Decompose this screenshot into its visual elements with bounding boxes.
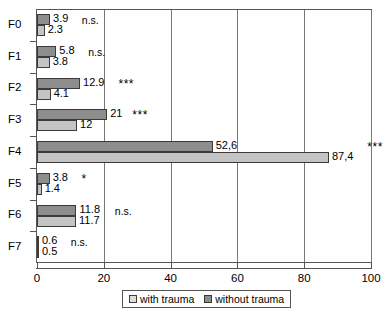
bar-value-label-with-trauma: 3.8 [53,55,68,68]
legend-item-label: without trauma [215,293,284,305]
category-row-f0: 3.92.3n.s. [37,10,371,42]
bar-value-label-with-trauma: 2.3 [48,23,63,36]
category-row-f3: 2112*** [37,105,371,137]
bar-without-trauma [37,236,39,247]
bar-value-label-without-trauma: 12.9 [83,76,104,89]
significance-label-f3: *** [132,109,148,122]
x-tick-mark [237,263,238,269]
x-tick-mark [37,263,38,269]
significance-label-f6: n.s. [115,205,132,218]
significance-label-f7: n.s. [71,236,88,249]
bar-value-label-with-trauma: 11.7 [79,214,100,227]
x-tick-mark [104,263,105,269]
gridline-100 [371,10,372,262]
bar-with-trauma [37,247,39,258]
significance-label-f1: n.s. [88,46,105,59]
significance-label-f5: * [81,173,86,186]
x-tick-label: 0 [34,272,40,284]
bar-value-label-without-trauma: 52,6 [216,139,237,152]
y-tick-label-f1: F1 [8,50,32,62]
y-tick-label-f5: F5 [8,177,32,189]
y-tick-mark [30,136,36,137]
bar-with-trauma [37,184,42,195]
bar-without-trauma [37,141,213,152]
bar-with-trauma [37,57,50,68]
bar-with-trauma [37,152,329,163]
category-row-f5: 3.81.4* [37,169,371,201]
bar-without-trauma [37,205,76,216]
category-row-f4: 52,687,4*** [37,137,371,169]
bar-value-label-without-trauma: 21 [110,107,122,120]
y-tick-mark [30,168,36,169]
y-tick-label-f6: F6 [8,208,32,220]
x-tick-label: 100 [361,272,380,284]
x-tick-label: 20 [97,272,110,284]
bar-with-trauma [37,216,76,227]
legend-item-label: with trauma [140,293,194,305]
y-tick-mark [30,73,36,74]
bar-value-label-with-trauma: 4.1 [54,87,69,100]
x-tick-label: 80 [298,272,311,284]
significance-label-f2: *** [118,78,134,91]
bar-value-label-with-trauma: 0.5 [42,245,57,258]
category-row-f7: 0.60.5n.s. [37,232,371,264]
bar-chart: 3.92.3n.s.5.83.8n.s.12.94.1***2112***52,… [0,0,386,310]
bar-with-trauma [37,89,51,100]
category-row-f2: 12.94.1*** [37,74,371,106]
y-tick-mark [30,231,36,232]
plot-area: 3.92.3n.s.5.83.8n.s.12.94.1***2112***52,… [36,9,372,263]
bar-with-trauma [37,25,45,36]
legend-item-without-trauma: without trauma [204,293,284,305]
bar-value-label-with-trauma: 12 [80,118,92,131]
bar-without-trauma [37,109,107,120]
legend-swatch-icon [129,295,137,303]
significance-label-f0: n.s. [82,14,99,27]
category-row-f6: 11.811.7n.s. [37,201,371,233]
y-tick-mark [30,104,36,105]
bar-value-label-with-trauma: 87,4 [332,150,353,163]
x-axis-line [36,268,372,269]
y-tick-label-f7: F7 [8,240,32,252]
x-tick-label: 60 [231,272,244,284]
y-tick-mark [30,41,36,42]
y-tick-label-f3: F3 [8,113,32,125]
x-tick-mark [171,263,172,269]
y-tick-label-f4: F4 [8,145,32,157]
bar-with-trauma [37,120,77,131]
x-tick-label: 40 [164,272,177,284]
y-tick-label-f2: F2 [8,81,32,93]
x-tick-mark [371,263,372,269]
chart-legend: with traumawithout trauma [122,290,291,308]
bar-value-label-with-trauma: 1.4 [45,182,60,195]
y-tick-mark [30,200,36,201]
legend-item-with-trauma: with trauma [129,293,194,305]
x-tick-mark [304,263,305,269]
category-row-f1: 5.83.8n.s. [37,42,371,74]
y-tick-label-f0: F0 [8,18,32,30]
legend-swatch-icon [204,295,212,303]
significance-label-f4: *** [367,141,383,154]
